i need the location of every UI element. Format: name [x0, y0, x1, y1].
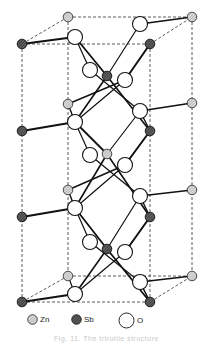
oxygen-atom [133, 275, 148, 290]
zn-atom-icon [27, 314, 38, 325]
oxygen-atom [133, 189, 148, 204]
zinc-atom [187, 185, 197, 195]
antimony-atom [102, 244, 112, 254]
bonds [22, 17, 192, 302]
zinc-atom [63, 185, 73, 195]
legend-item-o: O [118, 312, 143, 329]
zinc-atom [187, 271, 197, 281]
zinc-atom [187, 12, 197, 22]
oxygen-atom [133, 104, 148, 119]
antimony-atom [145, 212, 155, 222]
sb-atom-icon [71, 314, 82, 325]
oxygen-atom [118, 158, 133, 173]
crystal-structure-diagram [0, 0, 213, 347]
oxygen-atom [68, 30, 83, 45]
antimony-atom [17, 212, 27, 222]
legend: Zn Sb O [0, 314, 213, 330]
zinc-atom [63, 12, 73, 22]
oxygen-atom [133, 17, 148, 32]
oxygen-atom [118, 245, 133, 260]
oxygen-atom [68, 201, 83, 216]
zinc-atom [187, 98, 197, 108]
antimony-atom [145, 297, 155, 307]
legend-label-o: O [137, 316, 143, 325]
oxygen-atom [83, 148, 98, 163]
legend-item-sb: Sb [71, 314, 94, 325]
oxygen-atom [68, 287, 83, 302]
antimony-atom [145, 39, 155, 49]
unit-cell-box [22, 17, 192, 302]
legend-label-zn: Zn [40, 315, 49, 324]
figure-caption: Fig. 11. The trirutile structure [0, 335, 213, 342]
antimony-atom [145, 126, 155, 136]
antimony-atom [102, 71, 112, 81]
antimony-atom [17, 297, 27, 307]
zinc-atom [63, 99, 73, 109]
oxygen-atom [83, 63, 98, 78]
zinc-atom [63, 271, 73, 281]
legend-item-zn: Zn [27, 314, 49, 325]
antimony-atom [17, 39, 27, 49]
legend-label-sb: Sb [84, 315, 94, 324]
antimony-atom [17, 126, 27, 136]
oxygen-atom [68, 115, 83, 130]
antimony-atoms [17, 39, 155, 307]
zinc-atom [102, 149, 112, 159]
o-atom-icon [118, 312, 135, 329]
oxygen-atom [118, 73, 133, 88]
oxygen-atom [83, 235, 98, 250]
